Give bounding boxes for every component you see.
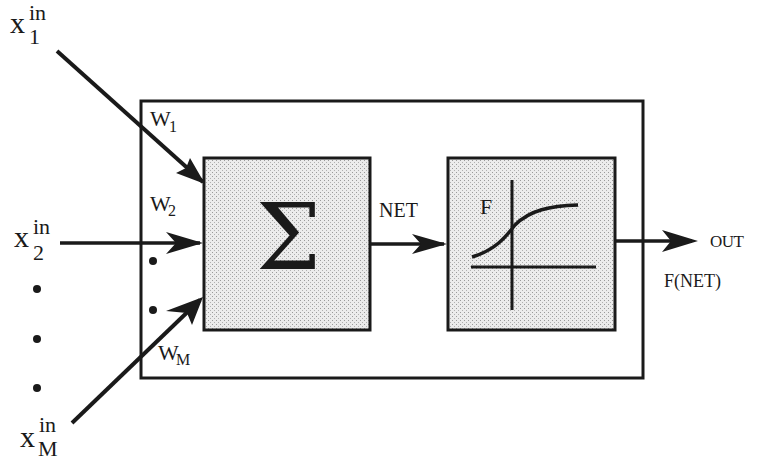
ellipsis-dot: [33, 285, 41, 293]
activation-block: [448, 158, 615, 330]
input-label-m: x in M: [20, 422, 35, 452]
ellipsis-dot: [33, 384, 41, 392]
weight-label-1: W 1: [150, 108, 171, 130]
activation-label: F: [480, 196, 492, 218]
input-label-1: x in 1: [10, 8, 25, 38]
input-label-2: x in 2: [14, 222, 29, 252]
summation-symbol: Σ: [256, 192, 321, 284]
input-m-base: x: [20, 420, 35, 453]
output-label: OUT: [710, 233, 743, 250]
net-label: NET: [379, 200, 418, 220]
input-1-sup: in: [29, 2, 46, 24]
weight-2-sub: 2: [168, 203, 176, 219]
weight-label-2: W 2: [150, 193, 171, 215]
input-1-base: x: [10, 6, 25, 39]
weight-m-sub: M: [176, 352, 190, 368]
weight-1-base: W: [150, 106, 171, 131]
weight-1-sub: 1: [169, 119, 177, 135]
weight-ellipsis-dot: [149, 257, 157, 265]
diagram-canvas: [0, 0, 765, 470]
input-m-sup: in: [39, 414, 56, 436]
input-2-base: x: [14, 220, 29, 253]
input-1-sub: 1: [29, 26, 40, 48]
input-2-sup: in: [33, 216, 50, 238]
input-2-sub: 2: [33, 242, 44, 264]
weight-label-m: W M: [158, 342, 179, 364]
ellipsis-dot: [33, 335, 41, 343]
input-arrow-1: [57, 51, 203, 182]
weight-ellipsis-dot: [149, 306, 157, 314]
arrowhead-m-icon: [166, 297, 203, 325]
input-m-sub: M: [38, 438, 58, 460]
output-formula: F(NET): [664, 272, 721, 290]
